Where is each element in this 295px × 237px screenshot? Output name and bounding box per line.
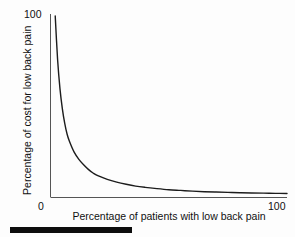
y-axis-title: Percentage of cost for low back pain <box>22 23 33 198</box>
x-axis-tick-100: 100 <box>268 201 286 212</box>
scale-bar <box>10 227 132 233</box>
x-axis-tick-0: 0 <box>38 201 44 212</box>
y-axis-tick-100: 100 <box>24 9 42 20</box>
figure-container: 100 0 100 Percentage of cost for low bac… <box>0 0 295 237</box>
x-axis-title: Percentage of patients with low back pai… <box>50 211 288 222</box>
chart-plot-area <box>0 0 295 237</box>
cost-curve <box>55 16 287 194</box>
